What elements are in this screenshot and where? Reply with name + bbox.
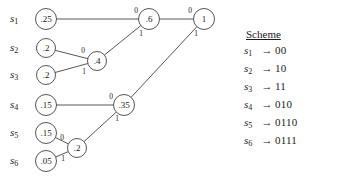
nodes-layer: .25.2.2.15.15.05.4.2.35.61 xyxy=(36,9,215,172)
edges-layer xyxy=(55,19,197,157)
scheme-rows: s1→00s2→10s3→11s4→010s5→0110s6→0111 xyxy=(244,43,344,151)
scheme-symbol: s5 xyxy=(244,115,259,133)
scheme-codeword: 010 xyxy=(275,97,292,112)
scheme-row: s6→0111 xyxy=(244,133,344,151)
tree-node-probability: .25 xyxy=(40,14,52,24)
tree-node-probability: .2 xyxy=(43,70,50,80)
scheme-codeword: 00 xyxy=(275,43,286,58)
edge-bit-label: 0 xyxy=(109,92,113,101)
tree-node-probability: .2 xyxy=(74,143,81,153)
tree-node-probability: 1 xyxy=(202,14,207,24)
scheme-codeword: 0111 xyxy=(275,133,297,148)
scheme-codeword: 11 xyxy=(275,79,286,94)
tree-node-probability: .15 xyxy=(40,100,52,110)
scheme-arrow-icon: → xyxy=(259,61,275,76)
edge-bit-label: 0 xyxy=(81,46,85,55)
scheme-row: s5→0110 xyxy=(244,115,344,133)
scheme-arrow-icon: → xyxy=(259,115,275,130)
scheme-arrow-icon: → xyxy=(259,43,275,58)
scheme-symbol: s2 xyxy=(244,61,259,79)
edge-bit-label: 1 xyxy=(194,29,198,38)
edge-bit-label: 0 xyxy=(188,6,192,15)
scheme-arrow-icon: → xyxy=(259,79,275,94)
scheme-title: Scheme xyxy=(244,28,344,40)
scheme-row: s1→00 xyxy=(244,43,344,61)
scheme-symbol-sub: 1 xyxy=(248,49,252,58)
edge-bit-label: 1 xyxy=(139,29,143,38)
scheme-symbol-sub: 3 xyxy=(248,85,252,94)
huffman-tree-figure: s1 s2 s3 s4 s5 s6 .25.2.2.15.15.05.4.2.3… xyxy=(0,0,346,178)
scheme-symbol: s6 xyxy=(244,133,259,151)
tree-node-probability: .6 xyxy=(146,14,153,24)
tree-node-probability: .05 xyxy=(40,156,52,166)
scheme-codeword: 0110 xyxy=(275,115,297,130)
scheme-arrow-icon: → xyxy=(259,133,275,148)
tree-edge xyxy=(104,26,140,55)
scheme-row: s3→11 xyxy=(244,79,344,97)
scheme-symbol-sub: 6 xyxy=(248,139,252,148)
tree-node-probability: .2 xyxy=(43,43,50,53)
scheme-symbol-sub: 4 xyxy=(248,103,252,112)
edge-bit-label: 0 xyxy=(134,6,138,15)
tree-node-probability: .4 xyxy=(94,56,101,66)
edge-bit-label: 1 xyxy=(82,67,86,76)
edge-bit-label: 0 xyxy=(60,133,64,142)
edge-bit-label: 1 xyxy=(61,154,65,163)
scheme-row: s2→10 xyxy=(244,61,344,79)
scheme-legend: Scheme s1→00s2→10s3→11s4→010s5→0110s6→01… xyxy=(244,28,344,151)
scheme-symbol: s3 xyxy=(244,79,259,97)
scheme-symbol: s1 xyxy=(244,43,259,61)
scheme-symbol-sub: 5 xyxy=(248,121,252,130)
scheme-arrow-icon: → xyxy=(259,97,275,112)
scheme-codeword: 10 xyxy=(275,61,286,76)
scheme-symbol: s4 xyxy=(244,97,259,115)
edge-bit-label: 1 xyxy=(115,114,119,123)
tree-node-probability: .15 xyxy=(40,128,52,138)
scheme-symbol-sub: 2 xyxy=(248,67,252,76)
tree-node-probability: .35 xyxy=(118,100,130,110)
tree-edge xyxy=(84,112,116,142)
scheme-row: s4→010 xyxy=(244,97,344,115)
